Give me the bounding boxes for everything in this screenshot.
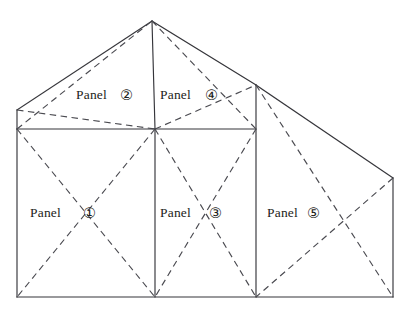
dashed-edge-group: [17, 21, 393, 297]
dash-panel2-diag-a: [17, 21, 152, 129]
edge-ridge-vertical: [152, 21, 155, 129]
dash-panel1-diag-b: [17, 129, 155, 297]
edge-left-roof-slope: [17, 21, 152, 110]
edge-right-roof-slope: [152, 21, 256, 85]
panel-diagram: Panel ① Panel ② Panel ③ Panel ④ Panel ⑤: [0, 0, 410, 314]
edge-right-lean-slope: [256, 85, 393, 178]
solid-edge-group: [17, 21, 393, 297]
diagram-canvas: [0, 0, 410, 314]
dash-panel4-diag-a: [155, 85, 256, 129]
dash-panel5-diag-b: [256, 178, 393, 297]
dash-panel1-diag-a: [17, 129, 155, 297]
dash-panel5-diag-a: [256, 85, 393, 297]
